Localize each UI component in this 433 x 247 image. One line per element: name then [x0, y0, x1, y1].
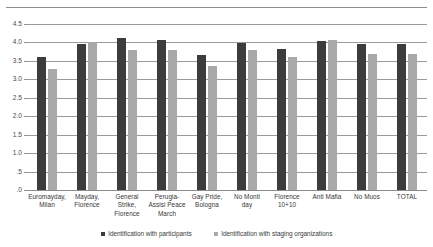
bar [277, 49, 287, 190]
axis-baseline [27, 190, 427, 191]
bar-group [187, 24, 227, 190]
bar [208, 66, 218, 190]
bar [357, 44, 367, 190]
y-axis-tick-label: 4.5 [13, 21, 22, 28]
bar-group [147, 24, 187, 190]
legend-swatch-icon [214, 232, 219, 237]
x-axis-tick-label: Florence 10+10 [267, 193, 307, 225]
bar [397, 44, 407, 190]
top-divider-rule [6, 7, 427, 8]
x-axis-tick-label: Mayday, Florence [67, 193, 107, 225]
bar-group [227, 24, 267, 190]
legend-item[interactable]: Identification with participants [101, 231, 192, 237]
bar-group [307, 24, 347, 190]
legend-label: Identification with participants [108, 231, 191, 237]
y-axis-tick-label: 4.0 [13, 39, 22, 46]
y-axis-tick-label: .5 [17, 168, 23, 175]
x-axis-tick-label: Anti Mafia [307, 193, 347, 225]
bar-chart: 4.54.03.53.02.52.01.51.0.5.0 Euromayday,… [0, 0, 433, 247]
bar [368, 54, 378, 190]
x-axis-tick-label: TOTAL [387, 193, 427, 225]
bar [88, 42, 98, 190]
x-axis-tick-label: No Muos [347, 193, 387, 225]
x-axis-tick-label: General Strike, Florence [107, 193, 147, 225]
bar-group [107, 24, 147, 190]
bar [237, 43, 247, 190]
x-axis-tick-label: Perugia-Assisi Peace March [147, 193, 187, 225]
bar [168, 50, 178, 190]
bar-group [387, 24, 427, 190]
bar [77, 44, 87, 190]
bar-group [347, 24, 387, 190]
y-axis-tick-label: 3.0 [13, 76, 22, 83]
bar [157, 40, 167, 191]
y-axis-tick-label: .0 [17, 187, 23, 194]
bar [37, 57, 47, 190]
bar-group [27, 24, 67, 190]
x-axis-tick-label: Euromayday, Milan [27, 193, 67, 225]
bar [128, 50, 138, 190]
bar [117, 38, 127, 190]
bar [48, 69, 58, 190]
bar-group [267, 24, 307, 190]
bar [317, 41, 327, 190]
x-axis-tick-label: Gay Pride, Bologna [187, 193, 227, 225]
bar-group [67, 24, 107, 190]
legend-item[interactable]: Identification with staging organization… [214, 231, 333, 237]
x-axis-tick-label: No Monti day [227, 193, 267, 225]
y-axis-tick-label: 2.5 [13, 94, 22, 101]
x-axis-labels: Euromayday, MilanMayday, FlorenceGeneral… [27, 193, 427, 225]
bar [288, 57, 298, 190]
y-axis-tick-label: 2.0 [13, 113, 22, 120]
bar [328, 40, 338, 190]
legend-label: Identification with staging organization… [221, 231, 332, 237]
y-axis: 4.54.03.53.02.52.01.51.0.5.0 [0, 24, 24, 190]
y-axis-tick-label: 1.5 [13, 131, 22, 138]
bar [248, 50, 258, 190]
chart-legend: Identification with participantsIdentifi… [0, 231, 433, 237]
legend-swatch-icon [101, 232, 106, 237]
y-axis-tick-label: 1.0 [13, 150, 22, 157]
bar-groups [27, 24, 427, 190]
bar [408, 54, 418, 190]
y-axis-tick-label: 3.5 [13, 58, 22, 65]
bar [197, 55, 207, 190]
